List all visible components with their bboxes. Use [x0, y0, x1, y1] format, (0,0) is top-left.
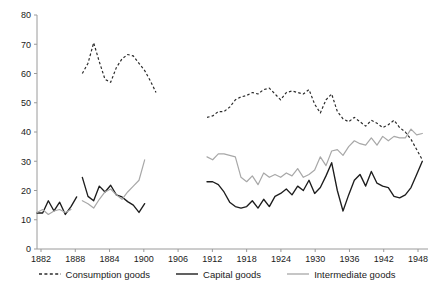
legend-label-consumption-goods: Consumption goods — [66, 269, 151, 280]
legend-item-intermediate-goods: Intermediate goods — [287, 269, 395, 280]
y-axis-tick-label: 30 — [21, 157, 31, 167]
legend-label-capital-goods: Capital goods — [203, 269, 261, 280]
legend-swatch-light-solid-icon — [287, 270, 309, 278]
y-axis-tick-label: 20 — [21, 186, 31, 196]
y-axis-tick-label: 60 — [21, 69, 31, 79]
series-line-consumption-goods — [82, 43, 156, 93]
y-axis-tick-label: 10 — [21, 215, 31, 225]
y-axis-tick-label: 40 — [21, 127, 31, 137]
line-chart-plot: 01020304050607080 1882188818841900190619… — [0, 0, 434, 291]
legend-item-capital-goods: Capital goods — [176, 269, 261, 280]
series-line-intermediate-goods — [207, 129, 422, 185]
legend-swatch-dashed-icon — [39, 270, 61, 278]
series-line-capital-goods — [37, 197, 77, 215]
series-line-intermediate-goods — [82, 160, 144, 208]
chart-legend: Consumption goods Capital goods Intermed… — [0, 262, 434, 286]
legend-swatch-solid-icon — [176, 270, 198, 278]
chart-container: 01020304050607080 1882188818841900190619… — [0, 0, 434, 291]
series-line-consumption-goods — [207, 88, 422, 160]
legend-label-intermediate-goods: Intermediate goods — [314, 269, 395, 280]
y-axis-ticks: 01020304050607080 — [21, 10, 37, 254]
y-axis-tick-label: 50 — [21, 98, 31, 108]
y-axis-tick-label: 70 — [21, 40, 31, 50]
legend-item-consumption-goods: Consumption goods — [39, 269, 151, 280]
y-axis-tick-label: 80 — [21, 10, 31, 20]
chart-series-group — [37, 43, 422, 215]
